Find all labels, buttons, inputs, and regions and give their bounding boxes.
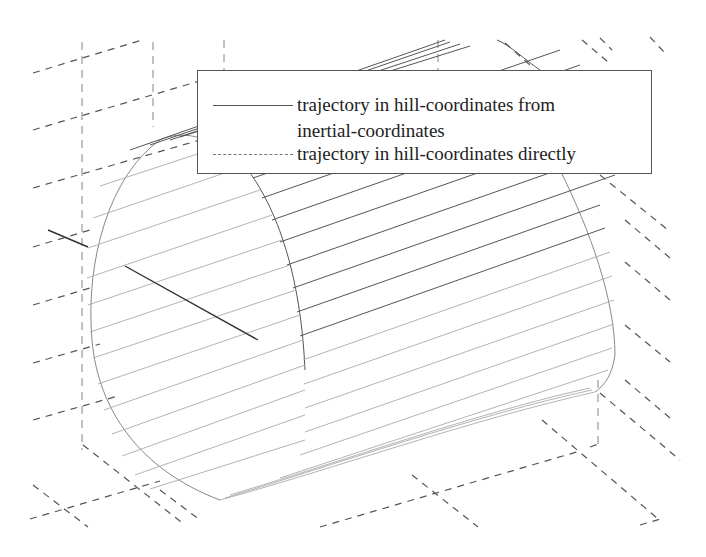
dashed-line-swatch-icon xyxy=(213,154,293,155)
legend-label-continued: inertial-coordinates xyxy=(297,119,445,143)
solid-line-swatch-icon xyxy=(213,105,293,106)
legend-label: trajectory in hill-coordinates from xyxy=(297,93,555,117)
legend: trajectory in hill-coordinates from iner… xyxy=(197,70,652,174)
legend-label: trajectory in hill-coordinates directly xyxy=(297,142,576,166)
trajectory-series xyxy=(48,230,258,340)
